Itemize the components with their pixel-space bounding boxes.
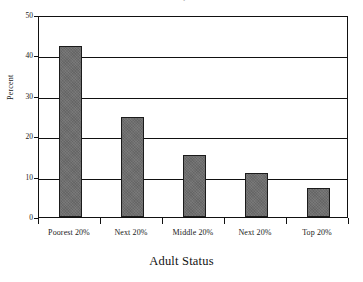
bar[interactable] (59, 46, 82, 217)
x-tick-label: Middle 20% (173, 228, 214, 238)
plot-area (38, 16, 348, 218)
x-tick-mark (348, 218, 349, 224)
x-tick-label: Top 20% (302, 228, 332, 238)
x-tick-label: Poorest 20% (48, 228, 90, 238)
bar[interactable] (245, 173, 268, 217)
bar-chart: Percent 01020304050 Poorest 20%Next 20%M… (0, 0, 363, 282)
x-tick-mark (224, 218, 225, 224)
x-tick-mark (38, 218, 39, 224)
x-tick-mark (162, 218, 163, 224)
y-tick-label-0: 0 (0, 214, 33, 222)
x-axis-title: Adult Status (0, 254, 363, 269)
y-axis-tick-labels: 01020304050 (0, 0, 34, 282)
y-tick-label-30: 30 (0, 93, 33, 101)
x-tick-mark (286, 218, 287, 224)
y-tick-label-40: 40 (0, 52, 33, 60)
bar[interactable] (183, 155, 206, 217)
bars-group (39, 17, 347, 217)
x-tick-mark (100, 218, 101, 224)
bar[interactable] (307, 188, 330, 217)
x-tick-label: Next 20% (114, 228, 147, 238)
x-tick-label: Next 20% (238, 228, 271, 238)
bar[interactable] (121, 117, 144, 217)
y-tick-label-10: 10 (0, 174, 33, 182)
y-tick-label-20: 20 (0, 133, 33, 141)
y-tick-label-50: 50 (0, 12, 33, 20)
